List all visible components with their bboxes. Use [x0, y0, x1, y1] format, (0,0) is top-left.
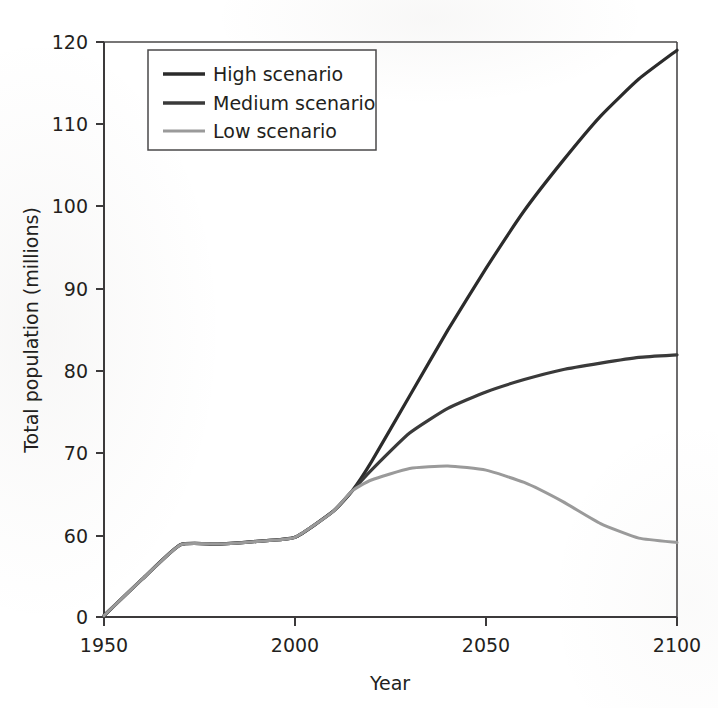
figure-canvas: 120 110 100 90 80 70 60 0 1950 2000 2050… — [0, 0, 718, 708]
series-line-low-scenario — [104, 466, 677, 616]
legend-label-high-scenario: High scenario — [213, 63, 343, 85]
legend-label-low-scenario: Low scenario — [213, 120, 337, 142]
legend-label-medium-scenario: Medium scenario — [213, 92, 375, 114]
series-line-medium-scenario — [104, 355, 677, 616]
x-tick-label-2050: 2050 — [462, 634, 510, 656]
legend[interactable]: High scenario Medium scenario Low scenar… — [148, 50, 376, 150]
y-tick-label-80: 80 — [64, 360, 88, 382]
x-tick-label-1950: 1950 — [80, 634, 128, 656]
x-tick-label-2100: 2100 — [653, 634, 701, 656]
x-axis-tick-labels: 1950 2000 2050 2100 — [80, 634, 701, 656]
x-axis-ticks — [104, 617, 677, 626]
y-axis-title: Total population (millions) — [20, 207, 42, 454]
line-chart: 120 110 100 90 80 70 60 0 1950 2000 2050… — [0, 0, 718, 708]
x-axis-title: Year — [369, 672, 410, 694]
y-tick-label-0: 0 — [76, 606, 88, 628]
y-tick-label-110: 110 — [52, 113, 88, 135]
x-tick-label-2000: 2000 — [271, 634, 319, 656]
y-axis-tick-labels: 120 110 100 90 80 70 60 0 — [52, 31, 88, 628]
y-tick-label-60: 60 — [64, 525, 88, 547]
y-tick-label-70: 70 — [64, 442, 88, 464]
y-tick-label-120: 120 — [52, 31, 88, 53]
y-axis-ticks — [96, 42, 104, 617]
y-tick-label-90: 90 — [64, 278, 88, 300]
y-tick-label-100: 100 — [52, 195, 88, 217]
